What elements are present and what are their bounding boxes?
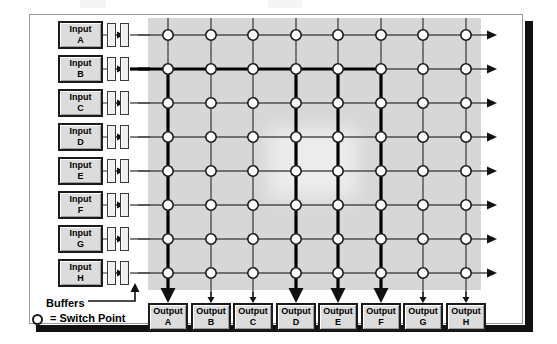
- switch-point: [163, 64, 173, 74]
- input-block-c[interactable]: InputC: [58, 89, 103, 117]
- switch-point: [333, 268, 343, 278]
- buffer-a-1[interactable]: [107, 23, 116, 47]
- input-block-id: H: [77, 273, 84, 284]
- switch-point: [206, 132, 216, 142]
- output-block-e[interactable]: OutputE: [318, 303, 358, 331]
- buffer-f-1[interactable]: [107, 193, 116, 217]
- switch-point-legend-label: = Switch Point: [50, 312, 125, 324]
- output-block-id: D: [293, 317, 300, 328]
- row-exit-arrow: [487, 201, 497, 210]
- input-block-label: Input: [70, 126, 92, 137]
- output-block-c[interactable]: OutputC: [233, 303, 273, 331]
- row-exit-arrow: [487, 133, 497, 142]
- buffer-d-2[interactable]: [120, 125, 129, 149]
- active-output-arrow: [161, 288, 176, 303]
- buffer-a-2[interactable]: [120, 23, 129, 47]
- input-block-label: Input: [70, 58, 92, 69]
- output-block-f[interactable]: OutputF: [361, 303, 401, 331]
- switch-point: [163, 166, 173, 176]
- active-output-arrow: [289, 288, 304, 303]
- input-block-f[interactable]: InputF: [58, 191, 103, 219]
- switch-point: [206, 30, 216, 40]
- output-block-label: Output: [366, 306, 396, 317]
- output-block-id: E: [335, 317, 341, 328]
- switch-point: [291, 64, 301, 74]
- switch-point: [461, 30, 471, 40]
- switch-point: [163, 268, 173, 278]
- buffer-f-2[interactable]: [120, 193, 129, 217]
- switch-point: [461, 268, 471, 278]
- buffer-e-2[interactable]: [120, 159, 129, 183]
- buffer-b-2[interactable]: [120, 57, 129, 81]
- switch-point: [333, 166, 343, 176]
- switch-point: [248, 268, 258, 278]
- input-block-e[interactable]: InputE: [58, 157, 103, 185]
- switch-point: [291, 268, 301, 278]
- switch-point: [333, 200, 343, 210]
- row-exit-arrow: [487, 65, 497, 74]
- output-block-a[interactable]: OutputA: [148, 303, 188, 331]
- output-block-b[interactable]: OutputB: [191, 303, 231, 331]
- switch-point: [376, 30, 386, 40]
- active-output-arrow: [331, 288, 346, 303]
- input-block-b[interactable]: InputB: [58, 55, 103, 83]
- switch-point: [333, 98, 343, 108]
- switch-point: [376, 166, 386, 176]
- buffer-h-2[interactable]: [120, 261, 129, 285]
- switch-point: [206, 98, 216, 108]
- switch-point: [333, 64, 343, 74]
- buffer-e-1[interactable]: [107, 159, 116, 183]
- output-block-id: B: [208, 317, 215, 328]
- input-block-d[interactable]: InputD: [58, 123, 103, 151]
- output-block-h[interactable]: OutputH: [446, 303, 486, 331]
- switch-point: [418, 64, 428, 74]
- output-block-label: Output: [451, 306, 481, 317]
- output-block-label: Output: [196, 306, 226, 317]
- output-block-id: G: [419, 317, 426, 328]
- switch-point: [248, 200, 258, 210]
- input-block-id: F: [78, 205, 84, 216]
- output-block-d[interactable]: OutputD: [276, 303, 316, 331]
- switch-point: [418, 268, 428, 278]
- input-block-id: B: [77, 69, 84, 80]
- input-block-g[interactable]: InputG: [58, 225, 103, 253]
- output-block-label: Output: [238, 306, 268, 317]
- input-block-label: Input: [70, 92, 92, 103]
- row-exit-arrow: [487, 167, 497, 176]
- switch-point: [376, 64, 386, 74]
- switch-point: [163, 200, 173, 210]
- switch-point: [376, 132, 386, 142]
- buffer-c-1[interactable]: [107, 91, 116, 115]
- output-block-id: F: [378, 317, 384, 328]
- row-exit-arrow: [487, 99, 497, 108]
- buffers-legend-label: Buffers: [46, 297, 85, 309]
- output-block-g[interactable]: OutputG: [403, 303, 443, 331]
- switch-point: [206, 166, 216, 176]
- switch-point: [461, 166, 471, 176]
- buffer-h-1[interactable]: [107, 261, 116, 285]
- switch-point: [291, 200, 301, 210]
- output-block-id: C: [250, 317, 257, 328]
- switch-point: [248, 30, 258, 40]
- row-exit-arrow: [487, 269, 497, 278]
- switch-point: [461, 64, 471, 74]
- buffer-b-1[interactable]: [107, 57, 116, 81]
- switch-point: [206, 64, 216, 74]
- switch-point: [291, 132, 301, 142]
- buffer-g-1[interactable]: [107, 227, 116, 251]
- input-block-id: A: [77, 35, 84, 46]
- buffer-g-2[interactable]: [120, 227, 129, 251]
- output-block-label: Output: [281, 306, 311, 317]
- input-block-id: E: [77, 171, 83, 182]
- input-block-id: C: [77, 103, 84, 114]
- buffer-c-2[interactable]: [120, 91, 129, 115]
- input-block-h[interactable]: InputH: [58, 259, 103, 287]
- input-block-a[interactable]: InputA: [58, 21, 103, 49]
- switch-point: [333, 234, 343, 244]
- switch-point: [461, 98, 471, 108]
- output-block-label: Output: [153, 306, 183, 317]
- buffers-leader-line: [88, 289, 135, 301]
- buffer-d-1[interactable]: [107, 125, 116, 149]
- switch-point: [206, 200, 216, 210]
- switch-point: [418, 234, 428, 244]
